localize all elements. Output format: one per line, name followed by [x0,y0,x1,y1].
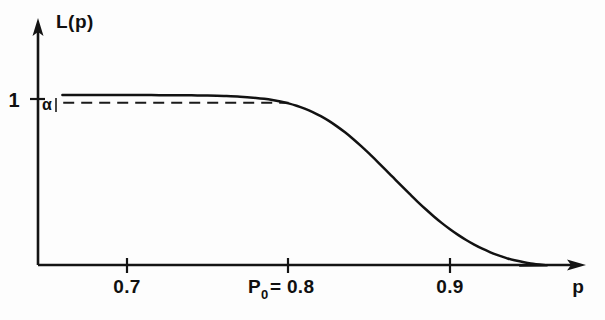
x-tick-label-0-9: 0.9 [436,276,463,297]
x-tick-label-p0-subscript: 0 [261,287,268,302]
oc-curve-plot: L(p) 1 α 0.7 P 0 = 0.8 0.9 p [0,0,605,320]
x-tick-label-p0-value: = 0.8 [270,276,314,297]
figure-operating-characteristic-curve: L(p) 1 α 0.7 P 0 = 0.8 0.9 p [0,0,605,320]
oc-curve-path [62,95,547,266]
caption-fragment [0,306,605,320]
x-tick-label-0-7: 0.7 [113,276,140,297]
y-axis-label: L(p) [56,11,94,32]
x-axis-label: p [572,276,584,297]
alpha-label: α [42,96,52,113]
y-tick-label-1: 1 [8,89,19,111]
x-tick-label-p0-prefix: P [248,276,261,297]
